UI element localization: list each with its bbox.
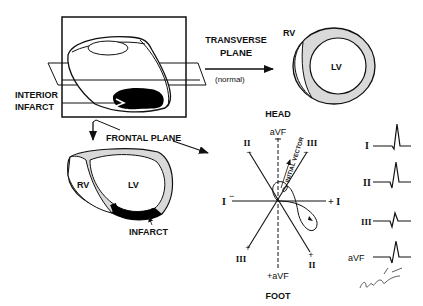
lead-iii-bottom-label: III <box>236 254 247 264</box>
infarct-region <box>113 88 164 109</box>
svg-text:+: + <box>245 243 250 253</box>
frontal-infarct-label: INFARCT <box>129 227 168 237</box>
svg-text:+: + <box>308 250 313 260</box>
transverse-rv-label: RV <box>283 28 295 38</box>
svg-text:II: II <box>363 177 371 188</box>
heart-top-opening <box>88 41 128 55</box>
frontal-plane-arrows: FRONTAL PLANE <box>93 120 208 153</box>
svg-text:III: III <box>361 217 372 227</box>
svg-text:−: − <box>246 147 251 157</box>
transverse-label-1: TRANSVERSE <box>205 35 267 45</box>
svg-text:−: − <box>229 191 234 201</box>
transverse-label-2: PLANE <box>220 47 252 58</box>
transverse-section: TRANSVERSE PLANE (normal) RV LV <box>205 28 375 104</box>
ecg-lead-iii: III <box>361 213 411 227</box>
frontal-section: RV LV INFARCT <box>68 149 173 237</box>
transverse-lv-label: LV <box>331 62 342 72</box>
diagram-canvas: INTERIOR INFARCT TRANSVERSE PLANE (norma… <box>0 0 423 306</box>
transverse-normal-label: (normal) <box>215 75 245 84</box>
ecg-lead-avf: aVF <box>348 241 411 263</box>
interior-infarct-label-2: INFARCT <box>15 102 54 112</box>
lead-ii-axis <box>249 152 310 252</box>
heart-3d-figure: INTERIOR INFARCT <box>15 17 206 117</box>
qrs-vector-loop <box>273 182 317 231</box>
hexaxial-reference-system: HEAD aVF +aVF FOOT II − III − I − + I + … <box>222 109 340 301</box>
lead-i-right-label: + I <box>328 196 340 207</box>
foot-label: FOOT <box>266 291 291 301</box>
avf-top-label: aVF <box>270 127 287 137</box>
artist-signature <box>360 268 402 288</box>
frontal-lv-label: LV <box>128 180 139 190</box>
ecg-lead-i: I <box>365 124 411 151</box>
interior-infarct-label-1: INTERIOR <box>15 90 59 100</box>
frontal-plane-label: FRONTAL PLANE <box>106 133 181 143</box>
ecg-lead-ii: II <box>363 162 411 188</box>
svg-text:I: I <box>365 140 369 151</box>
ecg-leads: I II III aVF <box>348 124 411 263</box>
lead-i-left-label: I <box>222 196 226 207</box>
svg-text:aVF: aVF <box>348 253 365 263</box>
head-label: HEAD <box>265 109 291 119</box>
lead-ii-bottom-label: II <box>308 260 316 270</box>
initial-vector-label: INITIAL VECTOR <box>284 136 305 184</box>
frontal-rv-label: RV <box>77 180 89 190</box>
avf-bottom-label: +aVF <box>267 271 289 281</box>
svg-text:−: − <box>303 147 308 157</box>
